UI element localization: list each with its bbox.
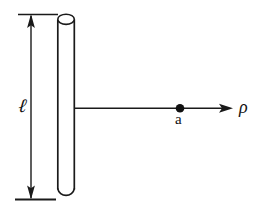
length-dimension-arrow [27,14,35,200]
radial-distance-label: ρ [239,98,248,116]
rod-top-cap-ellipse [58,14,75,24]
diagram-canvas: ℓ a ρ [0,0,262,215]
diagram-vector-graphics [0,0,262,215]
field-point-label: a [175,112,182,127]
radial-distance-arrow [75,104,234,113]
cylindrical-rod [58,14,75,195]
rod-body-fill [58,14,74,195]
